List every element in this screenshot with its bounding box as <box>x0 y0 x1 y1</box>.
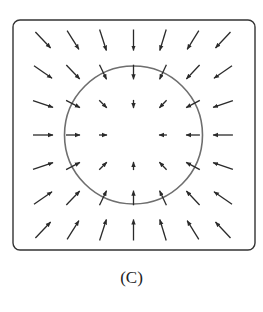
vector-arrow-icon <box>33 101 53 108</box>
vector-arrow-icon <box>99 100 107 108</box>
vector-arrow-icon <box>100 30 107 51</box>
vector-arrow-icon <box>213 101 233 108</box>
vector-arrow-icon <box>160 220 166 241</box>
vector-arrow-icon <box>35 222 50 238</box>
vector-arrow-icon <box>33 163 53 170</box>
vector-field-diagram <box>0 0 263 312</box>
vector-arrow-icon <box>187 221 199 240</box>
vector-arrow-icon <box>100 220 107 241</box>
vector-arrow-icon <box>159 100 166 108</box>
vector-arrow-icon <box>216 222 231 238</box>
vector-arrow-icon <box>159 162 166 170</box>
vector-arrow-icon <box>216 32 231 48</box>
figure-caption: (C) <box>0 268 263 288</box>
boundary-circle <box>65 66 203 204</box>
vector-arrow-icon <box>99 162 107 170</box>
vector-arrow-icon <box>160 30 166 51</box>
vector-arrow-icon <box>35 32 50 48</box>
vector-arrow-icon <box>67 221 79 240</box>
vector-arrow-icon <box>66 191 79 205</box>
vector-arrow-icon <box>187 31 199 50</box>
vector-arrow-icon <box>214 66 232 79</box>
vector-arrow-icon <box>67 31 79 50</box>
vector-arrow-icon <box>34 192 52 205</box>
vector-arrow-icon <box>186 191 199 205</box>
vector-arrow-icon <box>213 163 233 170</box>
vector-arrow-icon <box>186 65 199 79</box>
vector-arrow-icon <box>34 66 52 79</box>
vector-arrow-icon <box>66 65 79 79</box>
vector-arrow-icon <box>214 192 232 205</box>
